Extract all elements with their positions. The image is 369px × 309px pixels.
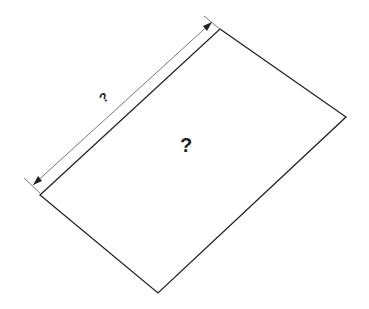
arrowhead-top-icon (203, 22, 212, 31)
arrowhead-bottom-icon (33, 176, 42, 185)
dimension-line (24, 16, 221, 193)
rectangle-shape (40, 29, 346, 293)
area-label: ? (180, 134, 192, 157)
